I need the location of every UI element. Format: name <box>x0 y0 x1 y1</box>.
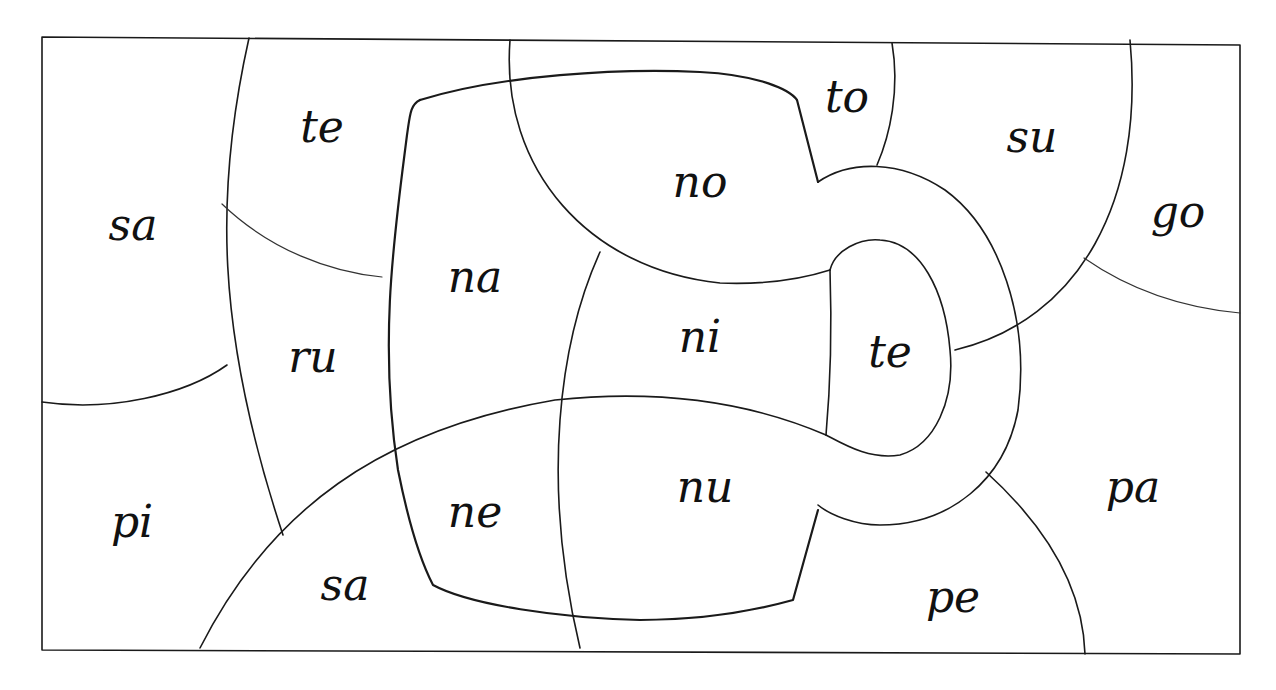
region-boundary <box>222 204 382 277</box>
region-boundary <box>558 252 600 648</box>
syllable-pe[interactable]: pe <box>926 571 980 622</box>
syllable-nu[interactable]: nu <box>677 461 734 512</box>
syllable-to[interactable]: to <box>825 71 869 122</box>
syllable-ru[interactable]: ru <box>288 331 337 382</box>
region-boundary <box>986 472 1085 654</box>
region-boundary <box>200 396 826 648</box>
region-boundary <box>877 43 895 165</box>
syllable-te-top[interactable]: te <box>300 101 344 152</box>
syllable-ne[interactable]: ne <box>448 486 502 537</box>
syllable-na[interactable]: na <box>448 251 503 302</box>
mug-outline <box>389 100 818 620</box>
syllable-su[interactable]: su <box>1007 111 1058 162</box>
region-boundary <box>42 365 227 405</box>
syllable-sa-top-left[interactable]: sa <box>109 199 158 250</box>
region-boundary <box>509 40 830 283</box>
region-boundary <box>955 40 1132 350</box>
puzzle-drawing: sa te to su no go na ni te ru nu pa pi n… <box>0 0 1276 690</box>
syllable-te-handle[interactable]: te <box>868 326 912 377</box>
region-boundary <box>227 38 283 535</box>
syllable-pi[interactable]: pi <box>111 496 153 547</box>
frame-border <box>42 37 1240 654</box>
mug-handle <box>818 166 1021 525</box>
syllable-pa[interactable]: pa <box>1106 461 1160 512</box>
syllable-no[interactable]: no <box>673 156 728 207</box>
syllable-go[interactable]: go <box>1151 186 1206 237</box>
mug-outline <box>420 71 818 182</box>
syllable-ni[interactable]: ni <box>679 311 721 362</box>
syllable-labels: sa te to su no go na ni te ru nu pa pi n… <box>109 71 1206 622</box>
region-boundary <box>826 270 831 435</box>
syllable-sa-bottom[interactable]: sa <box>321 559 370 610</box>
region-boundary <box>1084 258 1240 313</box>
